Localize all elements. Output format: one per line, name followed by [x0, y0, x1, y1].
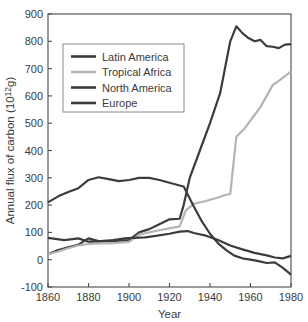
legend-label-north-america: North America	[102, 82, 173, 94]
y-tick-label: 800	[25, 35, 43, 47]
line-chart: -100010020030040050060070080090018601880…	[0, 0, 308, 322]
y-tick-label: 600	[25, 90, 43, 102]
chart-legend: Latin AmericaTropical AfricaNorth Americ…	[63, 44, 184, 112]
y-tick-label: 900	[25, 8, 43, 20]
y-tick-label: 700	[25, 63, 43, 75]
y-tick-label: 500	[25, 117, 43, 129]
legend-label-europe: Europe	[102, 97, 137, 109]
x-tick-label: 1920	[157, 291, 181, 303]
x-tick-label: 1940	[198, 291, 222, 303]
x-axis-title: Year	[158, 308, 181, 320]
x-tick-label: 1860	[36, 291, 60, 303]
legend-label-latin-america: Latin America	[102, 51, 170, 63]
x-tick-label: 1980	[279, 291, 303, 303]
y-tick-label: 400	[25, 145, 43, 157]
x-tick-label: 1900	[117, 291, 141, 303]
legend-label-tropical-africa: Tropical Africa	[102, 66, 172, 78]
x-tick-label: 1960	[238, 291, 262, 303]
x-tick-label: 1880	[76, 291, 100, 303]
y-tick-label: 200	[25, 199, 43, 211]
y-tick-label: 0	[37, 254, 43, 266]
y-tick-label: 100	[25, 226, 43, 238]
chart-figure: -100010020030040050060070080090018601880…	[0, 0, 308, 322]
y-axis-title: Annual flux of carbon (1012g)	[3, 77, 17, 225]
y-tick-label: 300	[25, 172, 43, 184]
